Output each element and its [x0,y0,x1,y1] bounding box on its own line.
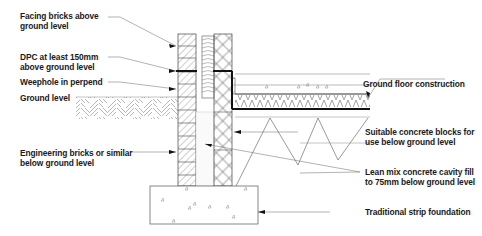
label-engineering-bricks: Engineering bricks or similar below grou… [20,148,133,168]
label-line: Engineering bricks or similar [20,148,133,158]
label-line: to 75mm below ground level [365,177,475,187]
label-line: above ground level [20,62,98,72]
label-line: Suitable concrete blocks for [365,127,474,137]
inner-block-leaf [214,34,232,186]
cavity-insulation [202,36,214,98]
label-line: ground level [20,21,99,31]
label-line: Ground floor construction [363,79,465,89]
label-ground-floor: Ground floor construction [363,79,465,89]
label-line: use below ground level [365,137,474,147]
label-line: Traditional strip foundation [365,207,471,217]
ground-soil [76,97,178,119]
label-strip-foundation: Traditional strip foundation [365,207,471,217]
strip-foundation [150,186,258,224]
wall-section-drawing [0,0,482,236]
label-weephole: Weephole in perpend [20,77,103,87]
ground-floor-slab [235,74,370,186]
label-line: Ground level [20,93,70,103]
label-cavity-fill: Lean mix concrete cavity fill to 75mm be… [365,167,475,187]
label-concrete-blocks: Suitable concrete blocks for use below g… [365,127,474,147]
label-dpc: DPC at least 150mm above ground level [20,52,98,72]
label-line: DPC at least 150mm [20,52,98,62]
label-line: Weephole in perpend [20,77,103,87]
label-facing-bricks: Facing bricks above ground level [20,11,99,31]
label-line: Lean mix concrete cavity fill [365,167,475,177]
label-line: Facing bricks above [20,11,99,21]
label-line: below ground level [20,158,133,168]
outer-brick-leaf [178,34,196,186]
lean-mix-cavity-fill [196,112,214,186]
label-ground-level: Ground level [20,93,70,103]
